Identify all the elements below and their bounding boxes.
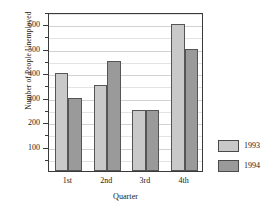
y-axis-tick-label: 100 xyxy=(14,144,40,152)
y-axis-tick-label: 400 xyxy=(14,70,40,78)
plot-area xyxy=(48,13,203,172)
y-axis-tick-label: 300 xyxy=(14,95,40,103)
y-axis-tick-label: 500 xyxy=(14,46,40,54)
y-axis-tick-label: 200 xyxy=(14,119,40,127)
legend-label-1994: 1994 xyxy=(244,161,260,171)
x-axis-title: Quarter xyxy=(48,192,203,201)
x-axis-tick-label-4th: 4th xyxy=(164,176,204,185)
x-axis-tick-label-1st: 1st xyxy=(47,176,87,185)
bar-group xyxy=(49,14,203,171)
legend-swatch-1994 xyxy=(218,160,239,172)
y-axis-tick-label: 600 xyxy=(14,21,40,29)
legend-label-1993: 1993 xyxy=(244,141,260,151)
bar-chart-figure: Number of People Unemployed 100200300400… xyxy=(0,0,274,211)
bar-4th-1994 xyxy=(185,49,199,171)
legend-swatch-1993 xyxy=(218,140,239,152)
bar-4th-1993 xyxy=(171,24,185,171)
x-axis-tick-label-3rd: 3rd xyxy=(125,176,165,185)
x-axis-tick-label-2nd: 2nd xyxy=(86,176,126,185)
